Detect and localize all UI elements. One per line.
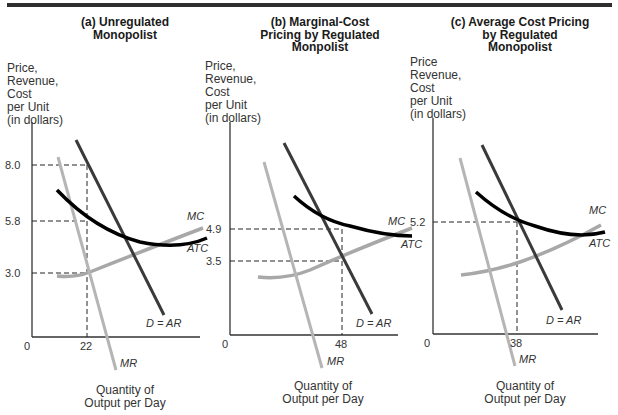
panel-a-ytick-5-8: 5.8 bbox=[5, 215, 20, 227]
panel-b-origin: 0 bbox=[222, 338, 228, 350]
panel-a-mr-label: MR bbox=[120, 357, 137, 369]
panel-b-atc-label: ATC bbox=[400, 238, 422, 250]
panel-a-xtick-22: 22 bbox=[80, 340, 92, 352]
panel-c-xtick-38: 38 bbox=[510, 337, 522, 349]
panel-b-plot: 4.9 3.5 0 48 MC ATC D = AR MR bbox=[206, 122, 422, 368]
panel-a-mc-label: MC bbox=[187, 210, 204, 222]
panel-a-atc-label: ATC bbox=[186, 242, 208, 254]
panel-c-mr-label: MR bbox=[519, 353, 536, 365]
panel-a-origin: 0 bbox=[24, 340, 30, 352]
panel-c-mr-line bbox=[460, 158, 515, 366]
panel-c-demand-label: D = AR bbox=[546, 314, 581, 326]
panel-a-ytick-8-0: 8.0 bbox=[5, 159, 20, 171]
panel-c-ytick-5-2: 5.2 bbox=[410, 216, 425, 228]
panel-a-plot: 8.0 5.8 3.0 0 22 MC ATC D = AR MR bbox=[5, 122, 208, 370]
panel-c-dashed-guides bbox=[433, 222, 517, 334]
panel-c-plot: 5.2 0 38 MC ATC D = AR MR bbox=[410, 118, 610, 366]
panel-b-mc-label: MC bbox=[388, 215, 405, 227]
panel-a-demand-line bbox=[76, 140, 164, 315]
panel-a-demand-label: D = AR bbox=[146, 317, 181, 329]
panel-c-mc-curve bbox=[461, 225, 601, 275]
panel-a-ytick-3-0: 3.0 bbox=[5, 267, 20, 279]
panel-c-origin: 0 bbox=[424, 337, 430, 349]
panel-b-ytick-3-5: 3.5 bbox=[206, 255, 221, 267]
panel-c-mc-label: MC bbox=[589, 204, 606, 216]
panel-b-ytick-4-9: 4.9 bbox=[206, 223, 221, 235]
panel-b-mr-line bbox=[264, 162, 322, 368]
panel-b-demand-label: D = AR bbox=[356, 317, 391, 329]
charts-canvas: 8.0 5.8 3.0 0 22 MC ATC D = AR MR 4.9 3.… bbox=[0, 0, 618, 415]
panel-c-atc-label: ATC bbox=[588, 237, 610, 249]
panel-b-mr-label: MR bbox=[327, 355, 344, 367]
panel-c-atc-curve bbox=[476, 192, 605, 235]
panel-b-xtick-48: 48 bbox=[335, 338, 347, 350]
